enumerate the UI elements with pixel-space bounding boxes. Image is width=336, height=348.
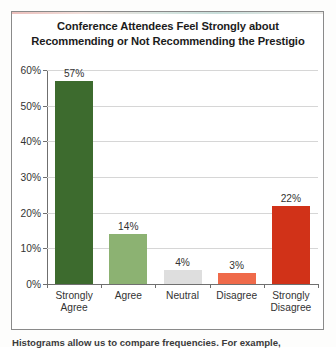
y-axis-label: 20% bbox=[21, 207, 41, 218]
bar-value-label: 57% bbox=[64, 68, 84, 79]
bar-value-label: 4% bbox=[175, 257, 190, 268]
bar-value-label: 22% bbox=[281, 193, 301, 204]
y-tick-mark bbox=[43, 141, 47, 142]
bar-strongly-disagree: 22% bbox=[272, 206, 310, 284]
category-label-line: Neutral bbox=[155, 290, 209, 302]
y-tick-mark bbox=[43, 106, 47, 107]
y-axis-label: 40% bbox=[21, 136, 41, 147]
chart-title-line-2: Recommending or Not Recommending the Pre… bbox=[20, 34, 316, 49]
category-label-neutral: Neutral bbox=[155, 290, 209, 302]
x-tick-mark bbox=[210, 284, 211, 288]
y-tick-mark bbox=[43, 177, 47, 178]
x-tick-mark bbox=[318, 284, 319, 288]
category-label-line: Agree bbox=[47, 302, 101, 314]
scan-color-fringe bbox=[12, 12, 323, 14]
y-tick-mark bbox=[43, 248, 47, 249]
bar-neutral: 4% bbox=[164, 270, 202, 284]
x-tick-mark bbox=[47, 284, 48, 288]
x-tick-mark bbox=[101, 284, 102, 288]
category-label-line: Strongly bbox=[264, 290, 318, 302]
category-label-strongly-agree: StronglyAgree bbox=[47, 290, 101, 314]
figure-caption: Histograms allow us to compare frequenci… bbox=[12, 337, 332, 348]
y-axis-label: 0% bbox=[26, 279, 41, 290]
x-axis-line bbox=[47, 284, 318, 285]
y-axis-label: 30% bbox=[21, 172, 41, 183]
y-axis-label: 60% bbox=[21, 65, 41, 76]
y-tick-mark bbox=[43, 213, 47, 214]
category-label-line: Disagree bbox=[264, 302, 318, 314]
y-axis-label: 50% bbox=[21, 100, 41, 111]
bar-disagree: 3% bbox=[218, 273, 256, 284]
x-tick-mark bbox=[264, 284, 265, 288]
bar-agree: 14% bbox=[109, 234, 147, 284]
category-label-strongly-disagree: StronglyDisagree bbox=[264, 290, 318, 314]
category-label-agree: Agree bbox=[101, 290, 155, 302]
y-tick-mark bbox=[43, 70, 47, 71]
category-label-disagree: Disagree bbox=[210, 290, 264, 302]
plot-area: 0%10%20%30%40%50%60% 57%14%4%3%22% Stron… bbox=[47, 70, 318, 284]
category-label-line: Strongly bbox=[47, 290, 101, 302]
chart-title: Conference Attendees Feel Strongly about… bbox=[20, 19, 316, 49]
gridline-60% bbox=[47, 70, 318, 71]
chart-title-line-1: Conference Attendees Feel Strongly about bbox=[20, 19, 316, 34]
bar-strongly-agree: 57% bbox=[55, 81, 93, 284]
category-label-line: Agree bbox=[101, 290, 155, 302]
bar-value-label: 3% bbox=[229, 260, 244, 271]
x-tick-mark bbox=[155, 284, 156, 288]
bar-value-label: 14% bbox=[118, 221, 138, 232]
y-axis-label: 10% bbox=[21, 243, 41, 254]
category-label-line: Disagree bbox=[210, 290, 264, 302]
